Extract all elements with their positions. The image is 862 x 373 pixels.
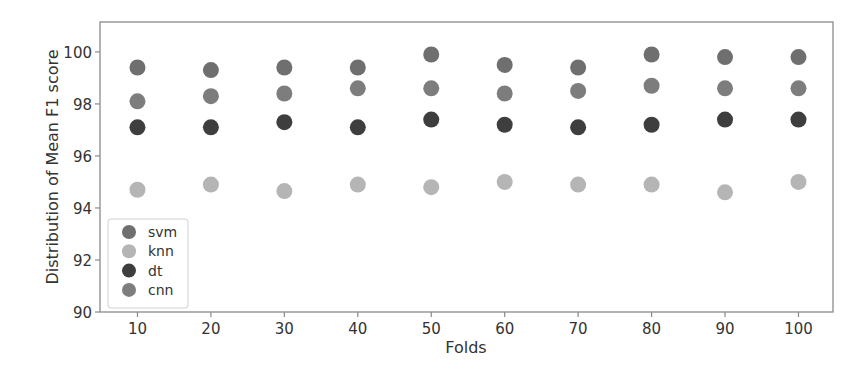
x-axis-label: Folds: [445, 338, 486, 357]
x-tick-label: 90: [715, 320, 734, 338]
x-tick-label: 60: [495, 320, 514, 338]
scatter-chart: 9092949698100 102030405060708090100 svmk…: [0, 0, 862, 373]
data-point-knn: [276, 183, 292, 199]
data-point-knn: [644, 177, 660, 193]
legend: svmknndtcnn: [108, 219, 188, 308]
data-point-svm: [276, 60, 292, 76]
y-tick-label: 96: [73, 148, 92, 166]
data-point-dt: [717, 112, 733, 128]
data-point-knn: [350, 177, 366, 193]
data-point-svm: [570, 60, 586, 76]
legend-marker-icon: [122, 264, 136, 278]
data-point-knn: [423, 179, 439, 195]
legend-label: dt: [148, 263, 163, 279]
data-point-dt: [423, 112, 439, 128]
data-point-svm: [203, 62, 219, 78]
data-point-dt: [350, 119, 366, 135]
data-point-cnn: [129, 93, 145, 109]
y-tick-label: 94: [73, 200, 92, 218]
data-point-cnn: [203, 88, 219, 104]
data-point-dt: [203, 119, 219, 135]
data-point-dt: [790, 112, 806, 128]
y-tick-label: 100: [63, 44, 92, 62]
data-point-dt: [276, 114, 292, 130]
data-point-svm: [350, 60, 366, 76]
data-point-knn: [497, 174, 513, 190]
x-tick-label: 70: [569, 320, 588, 338]
x-tick-label: 20: [201, 320, 220, 338]
legend-item-knn: knn: [122, 243, 174, 259]
data-point-cnn: [644, 78, 660, 94]
data-point-cnn: [423, 80, 439, 96]
legend-marker-icon: [122, 283, 136, 297]
x-tick-label: 30: [275, 320, 294, 338]
legend-label: svm: [148, 224, 177, 240]
legend-marker-icon: [122, 244, 136, 258]
legend-label: cnn: [148, 282, 173, 298]
x-tick-label: 10: [128, 320, 147, 338]
data-point-dt: [570, 119, 586, 135]
x-tick-label: 80: [642, 320, 661, 338]
legend-label: knn: [148, 243, 174, 259]
data-point-svm: [423, 47, 439, 63]
data-point-svm: [497, 57, 513, 73]
data-point-dt: [644, 117, 660, 133]
data-point-knn: [129, 182, 145, 198]
x-tick-label: 100: [784, 320, 813, 338]
x-tick-label: 50: [422, 320, 441, 338]
data-point-dt: [129, 119, 145, 135]
data-point-cnn: [570, 83, 586, 99]
data-point-knn: [790, 174, 806, 190]
legend-item-svm: svm: [122, 224, 177, 240]
data-point-cnn: [276, 86, 292, 102]
data-point-cnn: [350, 80, 366, 96]
data-point-svm: [644, 47, 660, 63]
data-point-dt: [497, 117, 513, 133]
y-tick-label: 92: [73, 252, 92, 270]
y-axis-label: Distribution of Mean F1 score: [43, 49, 62, 284]
data-point-cnn: [497, 86, 513, 102]
data-point-svm: [129, 60, 145, 76]
data-point-cnn: [717, 80, 733, 96]
legend-item-cnn: cnn: [122, 282, 173, 298]
data-point-svm: [717, 49, 733, 65]
data-point-knn: [717, 184, 733, 200]
legend-marker-icon: [122, 225, 136, 239]
data-point-svm: [790, 49, 806, 65]
y-tick-label: 98: [73, 96, 92, 114]
data-point-knn: [203, 177, 219, 193]
data-point-cnn: [790, 80, 806, 96]
data-point-knn: [570, 177, 586, 193]
y-tick-label: 90: [73, 304, 92, 322]
x-tick-label: 40: [348, 320, 367, 338]
